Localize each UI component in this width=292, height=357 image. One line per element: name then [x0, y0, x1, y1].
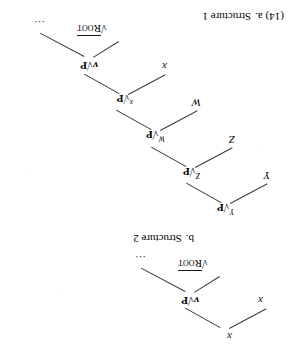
- node-x-root-p-sup-label: x: [130, 93, 133, 105]
- scan-speck: [60, 294, 61, 295]
- caption-a-title: Structure 1: [202, 11, 251, 23]
- node-x-root-p: x√P: [117, 93, 133, 108]
- node-y-specifier: Y: [264, 170, 270, 181]
- node-z-root-p-sup-label: Z: [196, 166, 200, 178]
- branch-wp-to-w: [160, 110, 198, 131]
- branch-yp-to-y: [230, 183, 268, 204]
- branch-yp-to-zp: [186, 183, 221, 203]
- s1-node-root: √Root: [178, 258, 208, 269]
- caption-example-number: (14): [266, 11, 284, 23]
- s1-node-x-top: x: [227, 331, 232, 342]
- syntax-tree-figure: Y√P Y Z√P Z W√P W x√: [0, 0, 292, 357]
- node-z-specifier: Z: [229, 134, 235, 145]
- caption-a-letter: a.: [255, 11, 263, 23]
- scan-speck: [28, 170, 29, 171]
- s1-branch-x-to-xspec: [229, 308, 267, 329]
- branch-xp-to-vp: [84, 74, 119, 94]
- s1-node-ellipsis: …: [134, 254, 146, 266]
- branch-wp-to-xp: [116, 110, 151, 130]
- branch-xp-to-x: [128, 74, 166, 95]
- caption-structure-1: (14)a.Structure 1: [202, 11, 284, 23]
- branch-zp-to-wp: [151, 147, 186, 167]
- caption-b-title: Structure 2: [133, 233, 182, 245]
- s1-branch-vp-to-root: [194, 276, 220, 293]
- node-w-root-p-label: √P: [146, 129, 159, 141]
- s1-node-x-specifier: x: [258, 295, 263, 306]
- node-v-root-p-label: v√P: [80, 60, 98, 72]
- s1-node-v-root-p: v√P: [181, 295, 199, 306]
- s1-branch-vp-to-ellipsis: [141, 268, 186, 292]
- node-y-root-p-label: √P: [217, 202, 230, 214]
- node-ellipsis: …: [33, 19, 45, 31]
- node-x-specifier: x: [162, 61, 167, 72]
- node-w-specifier: W: [192, 97, 201, 108]
- s1-branch-x-to-vp: [185, 308, 220, 328]
- node-y-root-p: Y√P: [217, 202, 234, 217]
- node-y-root-p-sup-label: Y: [230, 202, 234, 214]
- node-w-root-p: W√P: [146, 129, 165, 144]
- scan-speck: [258, 151, 259, 152]
- node-root: √Root: [77, 23, 107, 34]
- node-z-root-p-label: √P: [183, 166, 196, 178]
- caption-b-letter: b.: [186, 233, 194, 245]
- caption-structure-2: b.Structure 2: [133, 233, 194, 245]
- branch-vp-to-ellipsis: [40, 33, 85, 57]
- branch-zp-to-z: [195, 147, 233, 168]
- branch-vp-to-root: [93, 41, 119, 58]
- s1-node-v-root-p-label: v√P: [181, 295, 199, 307]
- node-v-root-p: v√P: [80, 60, 98, 71]
- figure-page: Y√P Y Z√P Z W√P W x√: [0, 0, 292, 357]
- node-z-root-p: Z√P: [183, 166, 200, 181]
